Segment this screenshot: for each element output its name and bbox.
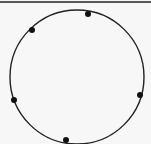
point-1 <box>85 11 91 17</box>
points-group <box>11 11 143 143</box>
point-5 <box>63 137 69 143</box>
circle-diagram <box>0 0 151 144</box>
point-2 <box>29 27 35 33</box>
point-3 <box>11 97 17 103</box>
point-4 <box>137 92 143 98</box>
